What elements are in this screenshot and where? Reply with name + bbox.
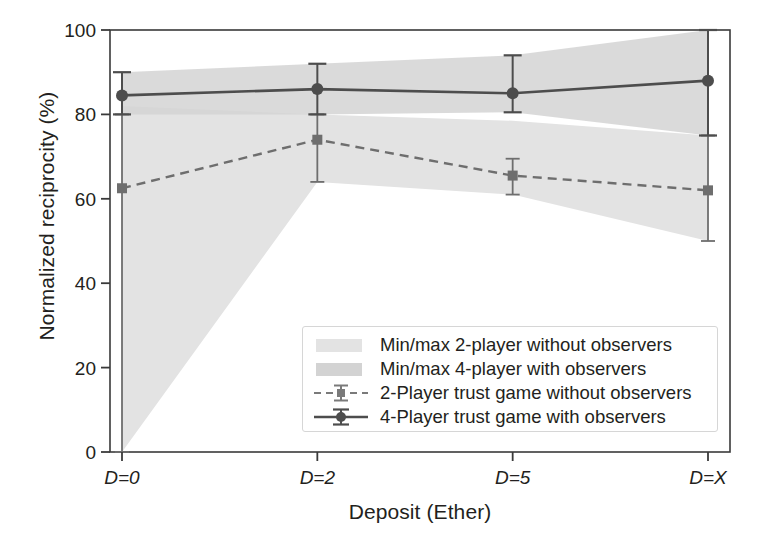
legend-label-minmax-2player: Min/max 2-player without observers [380,336,672,355]
x-tick-label: D=X [689,467,728,488]
legend-label-2player-line: 2-Player trust game without observers [380,384,692,403]
legend-swatch-minmax-2player [312,334,370,356]
x-axis-title: Deposit (Ether) [349,500,492,523]
legend-marker-4player-line [312,406,370,428]
legend-item-2player-line: 2-Player trust game without observers [312,381,708,405]
y-tick-label: 100 [64,20,96,41]
chart-plot-area: 020406080100 D=0D=2D=5D=X [0,0,776,547]
y-axis-title-wrap: Normalized reciprocity (%) [27,6,67,426]
y-tick-label: 0 [85,442,96,463]
y-tick-label: 20 [75,358,96,379]
legend-item-minmax-2player: Min/max 2-player without observers [312,333,708,357]
legend-label-minmax-4player: Min/max 4-player with observers [380,360,646,379]
legend-item-4player-line: 4-Player trust game with observers [312,405,708,429]
x-axis-title-wrap: Deposit (Ether) [110,500,730,524]
y-tick-label: 80 [75,104,96,125]
y-tick-label: 60 [75,189,96,210]
x-axis-ticks: D=0D=2D=5D=X [104,452,728,488]
legend-marker-2player-line [312,382,370,404]
legend-solid-circle-icon [312,406,370,428]
x-tick-label: D=0 [104,467,140,488]
y-axis-title: Normalized reciprocity (%) [35,92,59,341]
y-axis-ticks: 020406080100 [64,20,110,463]
legend-swatch-minmax-4player [312,358,370,380]
legend-dashed-square-icon [312,382,370,404]
x-tick-label: D=2 [300,467,336,488]
chart-legend: Min/max 2-player without observers Min/m… [302,326,718,432]
chart-figure: 020406080100 D=0D=2D=5D=X Normalized rec… [0,0,776,547]
legend-label-4player-line: 4-Player trust game with observers [380,408,666,427]
y-tick-label: 40 [75,273,96,294]
legend-item-minmax-4player: Min/max 4-player with observers [312,357,708,381]
x-tick-label: D=5 [495,467,531,488]
